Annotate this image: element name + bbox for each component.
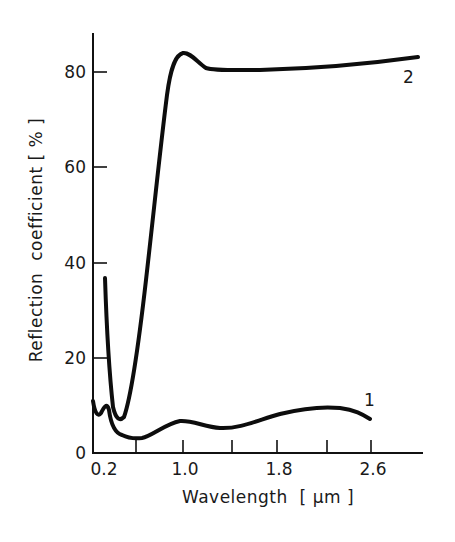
x-tick-label: 1.0 <box>171 459 198 479</box>
x-tick-label: 2.6 <box>359 459 386 479</box>
x-tick-label: 1.8 <box>265 459 292 479</box>
y-tick-label: 20 <box>64 348 86 368</box>
y-tick-label: 40 <box>64 253 86 273</box>
y-tick-label: 80 <box>64 62 86 82</box>
y-axis-label: Reflection coefficient [ % ] <box>26 118 46 362</box>
reflection-chart: 80 60 40 20 0 0.2 1.0 1.8 2.6 Wavelength… <box>0 0 455 542</box>
y-tick-label: 0 <box>75 443 86 463</box>
curve-2 <box>105 53 418 419</box>
x-ticks <box>136 440 371 453</box>
y-tick-label: 60 <box>64 157 86 177</box>
x-axis-label: Wavelength [ µm ] <box>182 487 354 507</box>
curve-1 <box>93 401 370 438</box>
curve-2-label: 2 <box>403 67 414 87</box>
x-tick-label: 0.2 <box>90 459 117 479</box>
curve-1-label: 1 <box>364 390 375 410</box>
